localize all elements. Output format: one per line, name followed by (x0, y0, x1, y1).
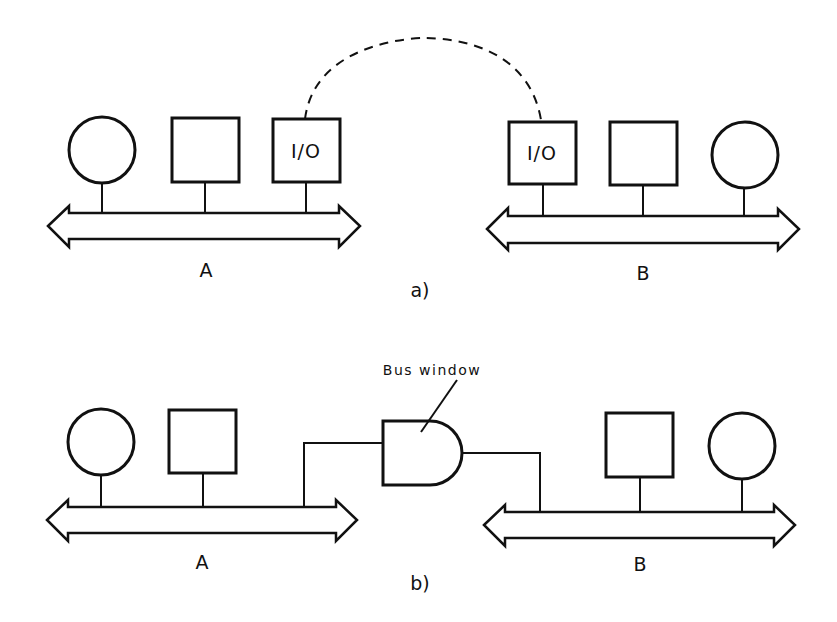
device-square (172, 118, 239, 182)
bus-label-b: B (633, 553, 646, 575)
panel-a: I/O A I/O B a) (48, 38, 799, 301)
device-circle (69, 117, 135, 183)
bus-label-a: A (200, 259, 213, 281)
device-square (610, 122, 677, 185)
bus-window: Bus window (304, 362, 540, 512)
bus-window-label: Bus window (383, 362, 481, 378)
panel-b: A Bus window B b) (47, 362, 795, 594)
device-circle (68, 409, 134, 475)
io-label: I/O (291, 140, 321, 162)
io-label: I/O (527, 142, 557, 164)
bus-a-left: A (47, 409, 357, 573)
bus-b-right: I/O B (487, 122, 799, 284)
device-circle (712, 122, 778, 188)
dashed-link (305, 38, 541, 120)
bus-b-right: B (484, 413, 795, 575)
device-square (169, 410, 236, 473)
bus-label-a: A (196, 551, 209, 573)
bus-a-left: I/O A (48, 117, 360, 281)
caption-b: b) (410, 572, 429, 594)
device-square (606, 413, 673, 477)
diagram-canvas: I/O A I/O B a) A (0, 0, 837, 622)
caption-a: a) (410, 279, 429, 301)
bus-label-b: B (636, 262, 649, 284)
device-circle (709, 413, 775, 479)
